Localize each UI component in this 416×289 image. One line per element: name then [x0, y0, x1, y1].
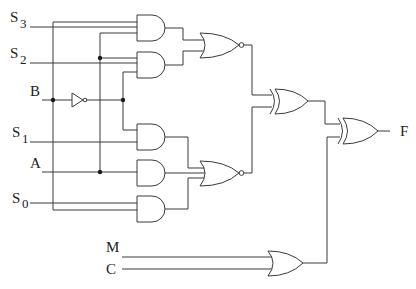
input-label-a: A — [30, 155, 41, 171]
svg-text:S: S — [10, 45, 18, 61]
svg-text:S: S — [10, 9, 18, 25]
input-label-s0: S 0 — [12, 190, 29, 211]
svg-text:3: 3 — [20, 16, 27, 31]
or-gate — [268, 251, 303, 276]
nor-gate-1 — [200, 33, 244, 58]
and-gate-1 — [137, 15, 165, 41]
svg-text:S: S — [12, 124, 20, 140]
input-label-s1: S 1 — [12, 124, 29, 146]
xor-gate-1 — [270, 89, 308, 114]
input-label-c: C — [106, 261, 116, 277]
not-gate — [72, 93, 87, 107]
input-label-m: M — [106, 239, 119, 255]
and-gate-5 — [137, 196, 165, 222]
and-gate-4 — [137, 160, 165, 186]
logic-circuit-diagram: S 3 S 2 B S 1 A S 0 M C F — [0, 0, 416, 289]
junction-dots — [51, 56, 125, 174]
nor-gate-2 — [200, 161, 244, 186]
wires — [30, 22, 390, 269]
and-gate-3 — [137, 124, 165, 150]
input-label-s2: S 2 — [10, 45, 27, 67]
output-label-f: F — [400, 123, 408, 139]
input-label-s3: S 3 — [10, 9, 27, 31]
svg-text:1: 1 — [22, 131, 29, 146]
and-gate-2 — [137, 52, 165, 78]
svg-text:0: 0 — [22, 196, 29, 211]
input-label-b: B — [30, 83, 40, 99]
svg-text:2: 2 — [20, 52, 27, 67]
svg-text:S: S — [12, 190, 20, 206]
xor-gate-2 — [338, 118, 378, 144]
